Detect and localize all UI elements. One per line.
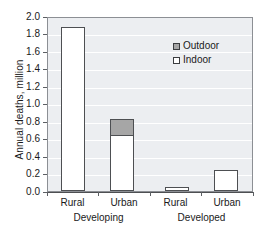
bar-urban-developing[interactable] [110,119,134,191]
legend-item-indoor[interactable]: Indoor [173,53,219,67]
x-group-label-developing: Developing [47,212,150,223]
bar-segment-indoor[interactable] [110,135,134,191]
y-tick-mark [43,52,47,53]
y-tick-mark [43,104,47,105]
bar-rural-developed[interactable] [165,187,189,191]
y-tick-label: 0.2 [18,168,40,179]
y-tick-mark [43,87,47,88]
y-tick-label: 1.2 [18,81,40,92]
y-tick-mark [43,17,47,18]
x-group-label-developed: Developed [150,212,253,223]
legend: Outdoor Indoor [173,39,219,67]
bar-segment-indoor[interactable] [165,187,189,191]
x-category-label-rural-developed: Rural [150,197,201,208]
bar-urban-developed[interactable] [214,170,238,191]
bar-segment-indoor[interactable] [214,170,238,191]
bar-chart: Annual deaths, million [0,0,268,242]
x-tick-mark [253,192,254,196]
y-tick-label: 1.6 [18,46,40,57]
y-tick-mark [43,174,47,175]
x-category-label-urban-developing: Urban [98,197,150,208]
x-category-label-rural-developing: Rural [47,197,98,208]
legend-item-outdoor[interactable]: Outdoor [173,39,219,53]
legend-swatch-outdoor-icon [173,43,180,50]
y-tick-label: 1.0 [18,98,40,109]
bar-segment-outdoor[interactable] [110,119,134,136]
plot-area: Outdoor Indoor [47,17,253,192]
y-tick-label: 2.0 [18,11,40,22]
x-tick-mark [201,192,202,196]
legend-label-outdoor: Outdoor [183,39,219,53]
y-tick-mark [43,34,47,35]
legend-label-indoor: Indoor [183,53,211,67]
y-tick-mark [43,122,47,123]
x-tick-mark [47,192,48,196]
x-tick-mark [150,192,151,196]
y-tick-label: 1.4 [18,63,40,74]
x-tick-mark [98,192,99,196]
y-tick-mark [43,139,47,140]
legend-swatch-indoor-icon [173,57,180,64]
y-axis-title: Annual deaths, million [14,35,25,185]
y-tick-label: 0.8 [18,116,40,127]
y-tick-label: 0.4 [18,151,40,162]
bar-rural-developing[interactable] [61,27,85,191]
x-category-label-urban-developed: Urban [201,197,253,208]
y-tick-label: 0.0 [18,186,40,197]
y-tick-mark [43,69,47,70]
y-tick-mark [43,157,47,158]
y-tick-label: 0.6 [18,133,40,144]
y-tick-label: 1.8 [18,28,40,39]
bar-segment-indoor[interactable] [61,27,85,191]
